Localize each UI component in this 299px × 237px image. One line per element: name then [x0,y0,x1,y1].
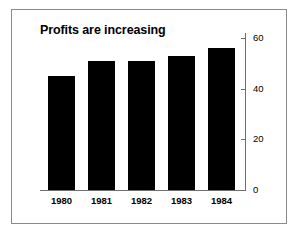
figure: Profits are increasing 0 20 40 60 1980 1… [0,0,299,237]
y-tick-mark-60 [241,38,246,39]
y-tick-label-0: 0 [253,185,258,195]
y-tick-label-60: 60 [253,33,264,43]
x-tick-label-1984: 1984 [208,195,235,206]
y-tick-mark-20 [241,139,246,140]
bar-1982 [128,61,155,190]
y-tick-mark-0 [241,190,246,191]
x-tick-label-1982: 1982 [128,195,155,206]
x-tick-label-1983: 1983 [168,195,195,206]
y-tick-mark-40 [241,89,246,90]
x-axis-line [40,190,241,191]
bar-1981 [88,61,115,190]
plot-area: Profits are increasing 0 20 40 60 1980 1… [0,0,299,237]
y-axis-line [245,33,246,191]
chart-title: Profits are increasing [40,23,166,37]
bar-1983 [168,56,195,190]
bar-1984 [208,48,235,190]
y-tick-label-20: 20 [253,134,264,144]
y-tick-label-40: 40 [253,84,264,94]
x-tick-label-1980: 1980 [48,195,75,206]
bar-1980 [48,76,75,190]
x-tick-label-1981: 1981 [88,195,115,206]
